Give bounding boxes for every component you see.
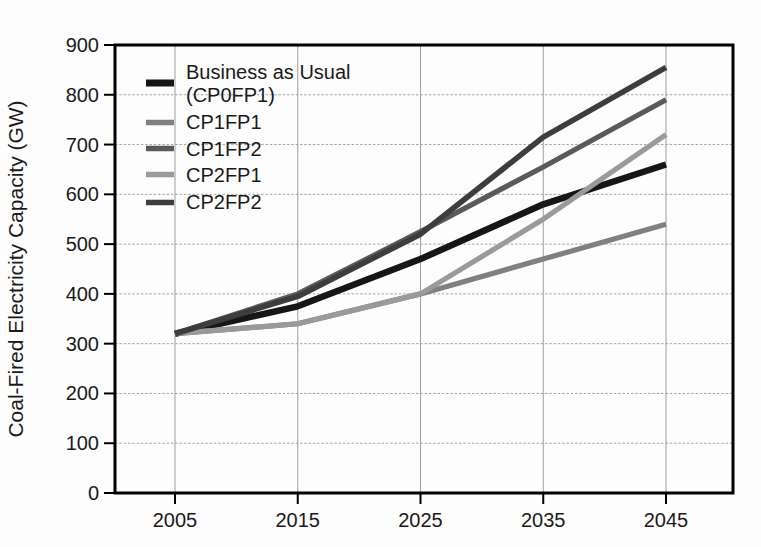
legend-label-cp2fp1: CP2FP1 (186, 164, 262, 186)
y-tick-label: 0 (88, 482, 99, 504)
legend-label-cp1fp2: CP1FP2 (186, 138, 262, 160)
y-tick-label: 100 (66, 432, 99, 454)
y-tick-label: 700 (66, 134, 99, 156)
y-tick-label: 400 (66, 283, 99, 305)
x-tick-label: 2035 (521, 509, 566, 531)
legend-label-cp1fp1: CP1FP1 (186, 111, 262, 133)
y-axis-title: Coal-Fired Electricity Capacity (GW) (4, 100, 27, 437)
y-tick-label: 600 (66, 183, 99, 205)
y-tick-label: 900 (66, 34, 99, 56)
y-tick-label: 200 (66, 382, 99, 404)
x-tick-label: 2025 (398, 509, 443, 531)
legend: Business as Usual(CP0FP1)CP1FP1CP1FP2CP2… (146, 61, 351, 213)
chart-figure: 0100200300400500600700800900200520152025… (0, 0, 761, 547)
legend-label-business-as-usual-cp0fp1: Business as Usual (186, 61, 351, 83)
y-tick-label: 800 (66, 84, 99, 106)
x-tick-label: 2045 (644, 509, 689, 531)
y-tick-label: 300 (66, 333, 99, 355)
y-tick-label: 500 (66, 233, 99, 255)
coal-capacity-line-chart: 0100200300400500600700800900200520152025… (0, 0, 761, 547)
legend-label-business-as-usual-cp0fp1: (CP0FP1) (186, 84, 275, 106)
x-tick-label: 2015 (276, 509, 321, 531)
x-tick-label: 2005 (153, 509, 198, 531)
legend-label-cp2fp2: CP2FP2 (186, 191, 262, 213)
